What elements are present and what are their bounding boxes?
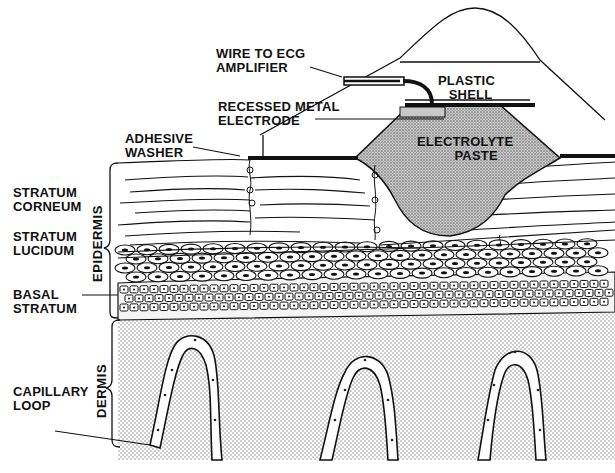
label-recessed-metal-electrode: RECESSED METALELECTRODE bbox=[218, 100, 340, 128]
lucidum-cells bbox=[115, 239, 608, 282]
label-electrolyte-paste: ELECTROLYTEPASTE bbox=[417, 135, 513, 163]
label-stratum-corneum: STRATUMCORNEUM bbox=[13, 186, 82, 214]
label-basal-stratum: BASALSTRATUM bbox=[13, 288, 77, 316]
label-epidermis: EPIDERMIS bbox=[90, 205, 105, 282]
label-dermis: DERMIS bbox=[94, 364, 109, 418]
label-plastic-shell: PLASTICSHELL bbox=[438, 74, 495, 102]
label-stratum-lucidum: STRATUMLUCIDUM bbox=[13, 230, 77, 258]
skin-electrode-diagram: WIRE TO ECGAMPLIFIER PLASTICSHELL RECESS… bbox=[0, 0, 615, 473]
label-adhesive-washer: ADHESIVEWASHER bbox=[125, 132, 193, 160]
electrolyte-paste bbox=[355, 105, 560, 236]
label-wire-to-ecg: WIRE TO ECGAMPLIFIER bbox=[216, 47, 305, 75]
label-capillary-loop: CAPILLARYLOOP bbox=[13, 385, 89, 413]
